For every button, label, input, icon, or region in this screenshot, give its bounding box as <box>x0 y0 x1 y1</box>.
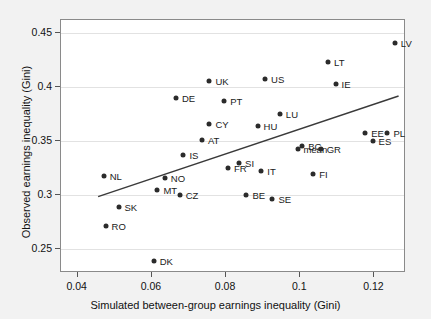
y-tick-label-0.45: 0.45 <box>18 26 52 38</box>
data-point-label-LV: LV <box>401 38 412 49</box>
data-point-label-SE: SE <box>278 194 291 205</box>
data-point-label-CY: CY <box>215 118 228 129</box>
data-point-label-LU: LU <box>286 108 298 119</box>
data-point-mean <box>296 146 301 151</box>
x-tick-label-0.1: 0.1 <box>292 280 307 292</box>
data-point-label-LT: LT <box>334 56 344 67</box>
data-point-UK <box>207 79 212 84</box>
data-point-SE <box>270 197 275 202</box>
data-point-CZ <box>177 193 182 198</box>
data-point-IT <box>259 169 264 174</box>
data-point-label-DE: DE <box>182 92 195 103</box>
data-point-BE <box>244 193 249 198</box>
data-point-label-mean: mean <box>303 143 327 154</box>
data-point-HU <box>255 123 260 128</box>
data-point-label-AT: AT <box>208 134 219 145</box>
y-tick-mark-0.25 <box>55 248 60 249</box>
y-tick-mark-0.3 <box>55 194 60 195</box>
y-axis-label: Observed earnings inequality (Gini) <box>20 52 32 252</box>
x-tick-label-0.08: 0.08 <box>215 280 235 292</box>
data-point-LT <box>326 59 331 64</box>
data-point-label-MT: MT <box>163 184 177 195</box>
data-point-label-IE: IE <box>342 78 351 89</box>
data-point-FR <box>225 165 230 170</box>
x-tick-mark-0.12 <box>373 272 374 277</box>
data-point-DE <box>174 95 179 100</box>
data-point-IS <box>181 152 186 157</box>
data-point-LV <box>392 41 397 46</box>
data-point-NO <box>162 175 167 180</box>
data-point-label-RO: RO <box>112 221 126 232</box>
data-point-CY <box>207 121 212 126</box>
data-point-IE <box>333 81 338 86</box>
data-point-label-HU: HU <box>264 120 278 131</box>
data-point-PT <box>222 98 227 103</box>
y-tick-mark-0.4 <box>55 86 60 87</box>
x-axis-label: Simulated between-group earnings inequal… <box>0 299 431 311</box>
chart-container: LVLTIEUSUKDEPTLUCYHUEEPLATESBGmeanGRISSI… <box>0 0 431 319</box>
data-point-label-GR: GR <box>327 143 341 154</box>
data-point-label-NL: NL <box>110 170 122 181</box>
x-tick-mark-0.06 <box>151 272 152 277</box>
data-point-GR <box>318 146 323 151</box>
data-point-AT <box>199 137 204 142</box>
data-point-label-US: US <box>271 74 284 85</box>
data-point-label-PL: PL <box>393 128 405 139</box>
data-point-label-UK: UK <box>215 76 228 87</box>
x-tick-label-0.06: 0.06 <box>141 280 161 292</box>
y-tick-mark-0.45 <box>55 32 60 33</box>
data-point-label-SK: SK <box>125 201 138 212</box>
data-point-US <box>263 77 268 82</box>
data-point-label-FR: FR <box>234 162 247 173</box>
data-point-label-IS: IS <box>189 149 198 160</box>
data-point-MT <box>155 187 160 192</box>
x-tick-label-0.12: 0.12 <box>363 280 383 292</box>
data-point-label-IT: IT <box>267 166 275 177</box>
data-point-RO <box>103 224 108 229</box>
data-point-label-FI: FI <box>319 169 327 180</box>
data-point-LU <box>277 111 282 116</box>
x-tick-label-0.04: 0.04 <box>66 280 86 292</box>
data-point-FI <box>311 172 316 177</box>
trend-line <box>61 20 404 271</box>
x-tick-mark-0.08 <box>225 272 226 277</box>
x-tick-mark-0.04 <box>77 272 78 277</box>
data-point-label-ES: ES <box>379 135 392 146</box>
data-point-NL <box>101 173 106 178</box>
data-point-DK <box>151 259 156 264</box>
data-point-EE <box>363 131 368 136</box>
x-tick-mark-0.1 <box>299 272 300 277</box>
data-point-label-BE: BE <box>252 190 265 201</box>
data-point-label-PT: PT <box>230 95 242 106</box>
data-point-ES <box>370 138 375 143</box>
y-tick-mark-0.35 <box>55 140 60 141</box>
data-point-SK <box>116 204 121 209</box>
data-point-label-NO: NO <box>171 172 185 183</box>
data-point-label-CZ: CZ <box>186 190 199 201</box>
data-point-label-DK: DK <box>160 256 173 267</box>
plot-area: LVLTIEUSUKDEPTLUCYHUEEPLATESBGmeanGRISSI… <box>60 19 405 272</box>
